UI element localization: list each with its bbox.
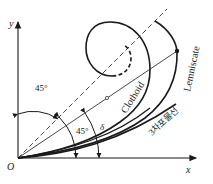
cubic-parabola-label: 3차포물선: [146, 105, 180, 138]
origin-label: O: [7, 161, 14, 172]
angle-label-delta: δ: [100, 122, 105, 132]
lemniscate-label: Lemniscate: [181, 44, 201, 92]
clothoid-inner-dashed: [112, 45, 131, 76]
angle-label-upper: 45°: [35, 83, 48, 93]
transition-curves-diagram: y x O 45° 45° δ Clothoid Lemniscate 3차포물…: [0, 0, 213, 184]
clothoid-label: Clothoid: [118, 80, 146, 116]
midpoint-open-circle: [105, 96, 108, 99]
angle-label-lower: 45°: [76, 126, 89, 136]
x-axis-label: x: [185, 164, 191, 175]
lemniscate-point-dot: [175, 49, 179, 53]
angle-arc-upper-45: [18, 111, 58, 119]
y-axis-label: y: [8, 18, 14, 29]
